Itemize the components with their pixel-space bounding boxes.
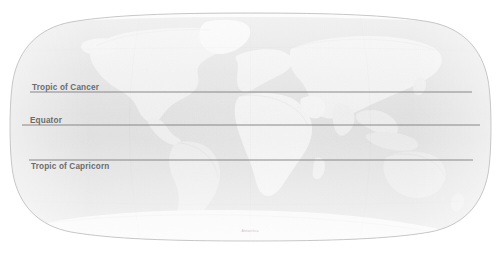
antarctica-note-label: Antarctica <box>241 229 258 233</box>
world-map-figure: Antarctica Tropic of Cancer Equator Trop… <box>0 0 501 255</box>
tropic-of-capricorn-label: Tropic of Capricorn <box>31 162 109 171</box>
world-map-svg: Antarctica Tropic of Cancer Equator Trop… <box>0 0 501 255</box>
tropic-of-cancer-label: Tropic of Cancer <box>32 83 100 92</box>
map-body: Antarctica <box>0 0 501 255</box>
equator-label: Equator <box>30 116 63 125</box>
fade-overlay-sides <box>0 0 501 255</box>
